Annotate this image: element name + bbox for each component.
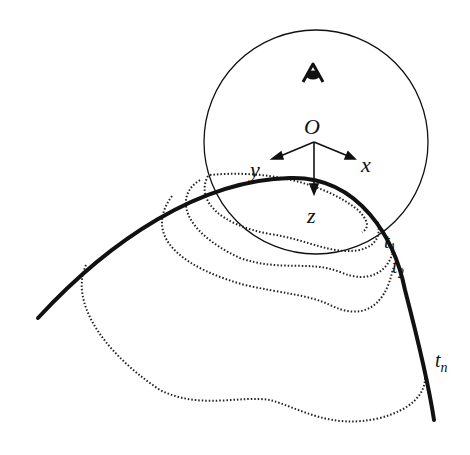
contour-lines: [82, 174, 425, 422]
time-label-t2: t2: [392, 255, 405, 281]
time-label-t1: t1: [384, 230, 397, 256]
time-label-tn: tn: [435, 349, 448, 375]
diagram-canvas: O x y z t1 t2 tn: [0, 0, 470, 455]
axis-x-label: x: [360, 152, 371, 177]
axis-y-label: y: [248, 157, 260, 182]
eye-icon: [303, 64, 323, 82]
axis-z-label: z: [306, 203, 316, 228]
origin-label: O: [304, 114, 320, 139]
coordinate-axes: [272, 142, 355, 194]
contour-t2-outer: [162, 196, 393, 312]
trajectory-curve: [38, 178, 434, 420]
contour-tn: [82, 265, 425, 422]
